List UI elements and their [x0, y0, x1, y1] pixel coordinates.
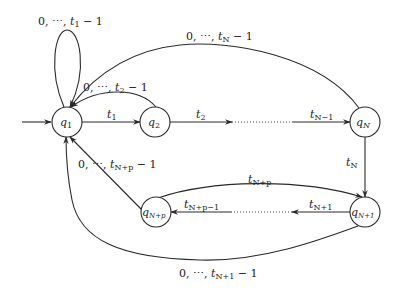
state-q1: q1 [52, 107, 82, 137]
label-qNp-q1: 0, ⋯, tN+p − 1 [78, 158, 156, 172]
label-qNp-qN1: tN+p [248, 173, 271, 187]
label-qN-q1: 0, ⋯, tN − 1 [186, 30, 253, 44]
edge-qN-q1 [70, 44, 359, 108]
label-prev-qNp: tN+p−1 [184, 198, 219, 212]
label-self-loop-q1: 0, ⋯, t1 − 1 [38, 15, 103, 29]
edge-qN1-q1 [66, 137, 358, 260]
label-q2-next: t2 [196, 108, 206, 122]
label-qN-qN1: tN [346, 156, 357, 170]
label-q1-q2: t1 [107, 108, 117, 122]
label-prev-qN: tN−1 [310, 108, 333, 122]
label-qN1-q1: 0, ⋯, tN+1 − 1 [179, 267, 257, 281]
edge-q2-q1 [71, 92, 156, 107]
automaton-diagram: 0, ⋯, t1 − 1 t1 0, ⋯, t2 − 1 t2 tN−1 0, … [0, 0, 401, 293]
state-q2: q2 [140, 107, 170, 137]
edge-self-loop-q1 [55, 30, 81, 107]
label-qN1-next: tN+1 [309, 198, 332, 212]
state-qN-plus-1: qN+1 [350, 197, 380, 227]
edge-qNp-q1 [70, 137, 142, 210]
state-qN-plus-p: qN+p [141, 197, 171, 227]
state-qN: qN [350, 107, 380, 137]
